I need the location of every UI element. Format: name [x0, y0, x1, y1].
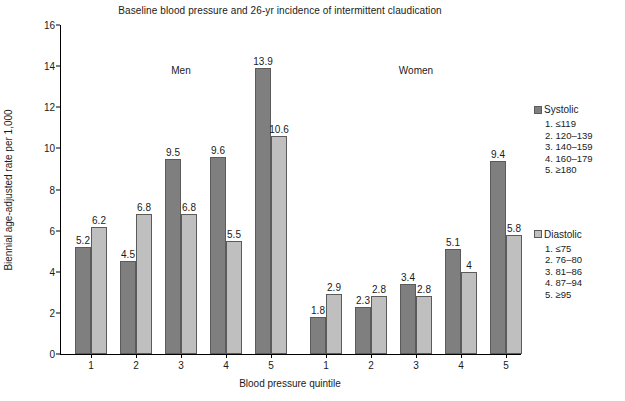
x-tick-label: 3 [178, 360, 184, 371]
x-tick-mark [91, 354, 92, 358]
y-tick-mark [56, 271, 60, 272]
x-tick-label: 5 [268, 360, 274, 371]
y-tick-label: 12 [44, 102, 55, 113]
y-tick-label: 2 [49, 307, 55, 318]
bar-value-label: 4 [466, 260, 472, 271]
legend-item-diastolic: 3. 81–86 [545, 266, 624, 278]
x-tick-mark [506, 354, 507, 358]
bar-women-systolic-q2: 2.3 [355, 307, 371, 354]
bar-value-label: 6.8 [137, 202, 151, 213]
group-label-men: Men [171, 65, 190, 76]
bar-men-systolic-q2: 4.5 [120, 261, 136, 354]
bar-value-label: 2.3 [356, 295, 370, 306]
bar-women-diastolic-q5: 5.8 [506, 235, 522, 354]
bar-men-diastolic-q5: 10.6 [271, 136, 287, 354]
bar-value-label: 9.4 [491, 149, 505, 160]
x-tick-mark [271, 354, 272, 358]
y-tick-mark [56, 107, 60, 108]
legend-item-systolic: 5. ≥180 [545, 164, 624, 176]
y-tick-label: 8 [49, 184, 55, 195]
x-tick-mark [226, 354, 227, 358]
bar-women-diastolic-q1: 2.9 [326, 294, 342, 354]
bar-women-systolic-q1: 1.8 [310, 317, 326, 354]
y-tick-mark [56, 230, 60, 231]
legend-item-diastolic: 1. ≤75 [545, 243, 624, 255]
bar-value-label: 2.9 [327, 282, 341, 293]
y-axis-title: Biennial age-adjusted rate per 1,000 [3, 109, 14, 270]
legend-swatch-systolic-icon [534, 106, 542, 114]
bar-value-label: 6.2 [92, 215, 106, 226]
y-tick-label: 10 [44, 143, 55, 154]
bar-men-systolic-q4: 9.6 [210, 157, 226, 354]
x-tick-mark [416, 354, 417, 358]
legend-items-diastolic: 1. ≤752. 76–803. 81–864. 87–945. ≥95 [545, 243, 624, 301]
bar-men-diastolic-q2: 6.8 [136, 214, 152, 354]
x-tick-mark [136, 354, 137, 358]
bar-women-systolic-q3: 3.4 [400, 284, 416, 354]
legend-item-systolic: 1. ≤119 [545, 118, 624, 130]
bar-value-label: 5.2 [76, 235, 90, 246]
legend-item-diastolic: 5. ≥95 [545, 289, 624, 301]
bar-men-diastolic-q4: 5.5 [226, 241, 242, 354]
x-tick-mark [326, 354, 327, 358]
bar-value-label: 10.6 [269, 124, 288, 135]
legend-item-systolic: 2. 120–139 [545, 130, 624, 142]
bar-value-label: 2.8 [372, 284, 386, 295]
legend-items-systolic: 1. ≤1192. 120–1393. 140–1594. 160–1795. … [545, 118, 624, 176]
x-tick-label: 3 [413, 360, 419, 371]
x-tick-mark [371, 354, 372, 358]
y-tick-label: 6 [49, 225, 55, 236]
y-tick-label: 4 [49, 266, 55, 277]
legend-item-systolic: 3. 140–159 [545, 141, 624, 153]
x-tick-label: 2 [133, 360, 139, 371]
bar-value-label: 6.8 [182, 202, 196, 213]
legend-item-systolic: 4. 160–179 [545, 153, 624, 165]
bar-women-systolic-q4: 5.1 [445, 249, 461, 354]
bar-women-diastolic-q3: 2.8 [416, 296, 432, 354]
y-tick-mark [56, 354, 60, 355]
bar-value-label: 1.8 [311, 305, 325, 316]
plot-area: 0246810121416 5.26.24.56.89.56.89.65.513… [60, 25, 520, 354]
legend-block-systolic: Systolic 1. ≤1192. 120–1393. 140–1594. 1… [534, 104, 624, 176]
x-tick-label: 1 [88, 360, 94, 371]
bar-value-label: 2.8 [417, 284, 431, 295]
legend-swatch-diastolic-icon [534, 230, 542, 238]
bar-women-diastolic-q2: 2.8 [371, 296, 387, 354]
bar-value-label: 4.5 [121, 249, 135, 260]
x-tick-label: 4 [458, 360, 464, 371]
x-tick-label: 2 [368, 360, 374, 371]
x-tick-label: 5 [503, 360, 509, 371]
bar-women-systolic-q5: 9.4 [490, 161, 506, 354]
x-tick-mark [461, 354, 462, 358]
bar-men-systolic-q5: 13.9 [255, 68, 271, 354]
bar-men-diastolic-q3: 6.8 [181, 214, 197, 354]
chart-title: Baseline blood pressure and 26-yr incide… [0, 5, 560, 16]
bar-value-label: 5.8 [507, 223, 521, 234]
x-tick-mark [181, 354, 182, 358]
bar-men-systolic-q1: 5.2 [75, 247, 91, 354]
legend-block-diastolic: Diastolic 1. ≤752. 76–803. 81–864. 87–94… [534, 229, 624, 301]
group-label-women: Women [399, 65, 433, 76]
x-axis-line [60, 354, 521, 355]
y-tick-mark [56, 25, 60, 26]
legend-item-diastolic: 4. 87–94 [545, 277, 624, 289]
legend-header-systolic: Systolic [534, 104, 624, 115]
legend-item-diastolic: 2. 76–80 [545, 254, 624, 266]
x-tick-label: 1 [323, 360, 329, 371]
legend-title-diastolic: Diastolic [544, 229, 582, 240]
y-tick-label: 0 [49, 349, 55, 360]
x-axis-title: Blood pressure quintile [60, 378, 520, 389]
bar-men-systolic-q3: 9.5 [165, 159, 181, 354]
chart-legend: Systolic 1. ≤1192. 120–1393. 140–1594. 1… [534, 104, 624, 300]
y-tick-mark [56, 66, 60, 67]
legend-header-diastolic: Diastolic [534, 229, 624, 240]
bar-value-label: 3.4 [401, 272, 415, 283]
y-tick-mark [56, 312, 60, 313]
bar-value-label: 5.5 [227, 229, 241, 240]
bar-value-label: 9.6 [211, 145, 225, 156]
bar-men-diastolic-q1: 6.2 [91, 227, 107, 354]
bar-value-label: 9.5 [166, 147, 180, 158]
y-tick-mark [56, 148, 60, 149]
bar-value-label: 5.1 [446, 237, 460, 248]
y-tick-label: 16 [44, 20, 55, 31]
